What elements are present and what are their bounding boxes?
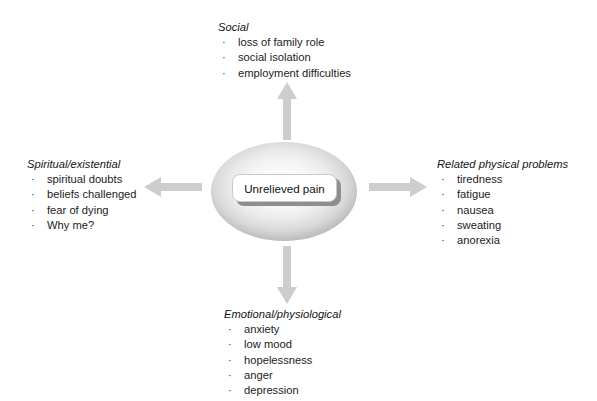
branch-emotional: Emotional/physiological ·anxiety ·low mo… xyxy=(224,307,341,398)
bullet-icon: · xyxy=(228,353,232,368)
branch-social: Social ·loss of family role ·social isol… xyxy=(218,20,351,81)
list-item: ·fear of dying xyxy=(27,203,137,218)
bullet-icon: · xyxy=(222,50,226,65)
list-item: ·sweating xyxy=(437,218,568,233)
list-item: ·anorexia xyxy=(437,233,568,248)
arrow-left-icon xyxy=(144,176,202,198)
list-item-label: fear of dying xyxy=(47,204,109,216)
list-item: ·social isolation xyxy=(218,50,351,65)
bullet-icon: · xyxy=(228,368,232,383)
list-item-label: sweating xyxy=(457,219,501,231)
list-item-label: loss of family role xyxy=(238,36,324,48)
branch-spiritual: Spiritual/existential ·spiritual doubts … xyxy=(27,157,137,233)
branch-social-title: Social xyxy=(218,20,351,35)
branch-emotional-title: Emotional/physiological xyxy=(224,307,341,322)
bullet-icon: · xyxy=(222,35,226,50)
list-item: ·spiritual doubts xyxy=(27,172,137,187)
branch-spiritual-list: ·spiritual doubts ·beliefs challenged ·f… xyxy=(27,172,137,233)
bullet-icon: · xyxy=(441,203,445,218)
list-item-label: social isolation xyxy=(238,51,311,63)
list-item-label: Why me? xyxy=(47,219,94,231)
list-item: ·tiredness xyxy=(437,172,568,187)
branch-physical-title: Related physical problems xyxy=(437,157,568,172)
list-item: ·depression xyxy=(224,383,341,398)
branch-spiritual-title: Spiritual/existential xyxy=(27,157,137,172)
list-item: ·employment difficulties xyxy=(218,66,351,81)
bullet-icon: · xyxy=(31,203,35,218)
arrow-right-icon xyxy=(369,176,427,198)
bullet-icon: · xyxy=(31,218,35,233)
branch-physical-list: ·tiredness ·fatigue ·nausea ·sweating ·a… xyxy=(437,172,568,248)
list-item-label: beliefs challenged xyxy=(47,188,137,200)
list-item: ·low mood xyxy=(224,337,341,352)
center-label-text: Unrelieved pain xyxy=(244,182,325,195)
list-item-label: hopelessness xyxy=(244,354,312,366)
list-item: ·fatigue xyxy=(437,187,568,202)
bullet-icon: · xyxy=(441,218,445,233)
center-label-box: Unrelieved pain xyxy=(232,174,337,202)
list-item: ·Why me? xyxy=(27,218,137,233)
list-item-label: anxiety xyxy=(244,323,279,335)
bullet-icon: · xyxy=(228,322,232,337)
list-item: ·nausea xyxy=(437,203,568,218)
bullet-icon: · xyxy=(441,187,445,202)
bullet-icon: · xyxy=(441,233,445,248)
bullet-icon: · xyxy=(441,172,445,187)
list-item-label: employment difficulties xyxy=(238,67,351,79)
list-item: ·beliefs challenged xyxy=(27,187,137,202)
list-item-label: tiredness xyxy=(457,173,502,185)
arrow-down-icon xyxy=(276,246,298,304)
bullet-icon: · xyxy=(31,172,35,187)
list-item-label: anger xyxy=(244,369,273,381)
list-item: ·loss of family role xyxy=(218,35,351,50)
bullet-icon: · xyxy=(228,383,232,398)
bullet-icon: · xyxy=(228,337,232,352)
branch-emotional-list: ·anxiety ·low mood ·hopelessness ·anger … xyxy=(224,322,341,398)
bullet-icon: · xyxy=(31,187,35,202)
bullet-icon: · xyxy=(222,66,226,81)
list-item-label: low mood xyxy=(244,338,292,350)
branch-social-list: ·loss of family role ·social isolation ·… xyxy=(218,35,351,81)
list-item-label: spiritual doubts xyxy=(47,173,122,185)
list-item: ·anger xyxy=(224,368,341,383)
list-item-label: depression xyxy=(244,384,299,396)
list-item-label: fatigue xyxy=(457,188,491,200)
list-item-label: anorexia xyxy=(457,234,500,246)
list-item: ·hopelessness xyxy=(224,353,341,368)
diagram-canvas: Social ·loss of family role ·social isol… xyxy=(0,0,597,401)
list-item-label: nausea xyxy=(457,204,494,216)
arrow-up-icon xyxy=(276,82,298,140)
center-node: Unrelieved pain xyxy=(211,142,357,241)
branch-physical: Related physical problems ·tiredness ·fa… xyxy=(437,157,568,248)
list-item: ·anxiety xyxy=(224,322,341,337)
